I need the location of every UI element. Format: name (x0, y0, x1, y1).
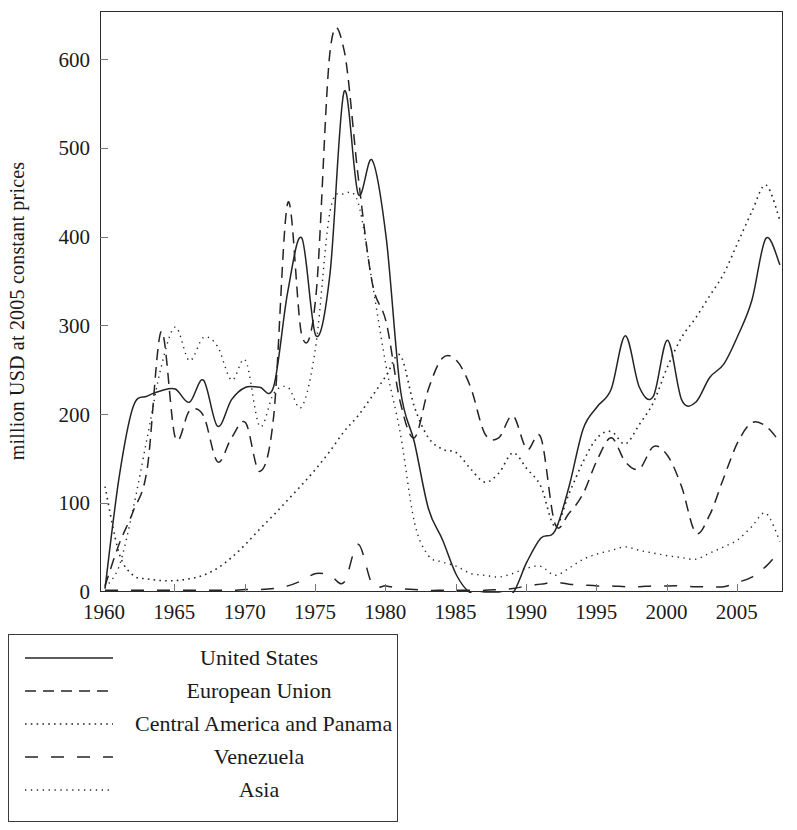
legend-item[interactable]: United States (15, 641, 387, 674)
x-tick-label: 1990 (505, 600, 547, 625)
legend-line-sample-icon (15, 679, 135, 703)
line-chart: million USD at 2005 constant prices 0100… (0, 0, 797, 622)
y-tick-label: 600 (59, 47, 91, 72)
x-tick-label: 1960 (83, 600, 125, 625)
legend-line-sample-icon (15, 745, 135, 769)
x-tick-label: 2005 (716, 600, 758, 625)
x-tick-label: 1995 (575, 600, 617, 625)
legend-item[interactable]: Venezuela (15, 740, 387, 773)
plot-area (100, 11, 783, 592)
y-tick-mark (100, 414, 108, 415)
x-tick-mark (315, 584, 316, 592)
x-tick-mark (385, 584, 386, 592)
y-tick-label: 300 (59, 313, 91, 338)
x-tick-mark (456, 584, 457, 592)
legend-item[interactable]: Asia (15, 773, 387, 806)
y-tick-label: 200 (59, 402, 91, 427)
legend-item-label: Central America and Panama (135, 711, 396, 737)
series-line-venezuela (105, 544, 780, 590)
y-tick-mark (100, 237, 108, 238)
y-axis-tick-labels: 0100200300400500600 (0, 0, 100, 622)
x-tick-label: 1985 (435, 600, 477, 625)
x-tick-label: 1975 (294, 600, 336, 625)
y-tick-label: 400 (59, 225, 91, 250)
y-tick-mark (100, 148, 108, 149)
legend-line-sample-icon (15, 712, 135, 736)
x-tick-mark (245, 584, 246, 592)
x-tick-mark (174, 584, 175, 592)
x-tick-mark (737, 584, 738, 592)
series-line-united-states (105, 91, 780, 593)
x-tick-label: 1965 (153, 600, 195, 625)
series-line-european-union (105, 28, 780, 586)
legend-item-label: Asia (135, 777, 387, 803)
x-tick-mark (526, 584, 527, 592)
legend-line-sample-icon (15, 646, 135, 670)
legend-item[interactable]: Central America and Panama (15, 707, 387, 740)
legend-item-label: United States (135, 645, 387, 671)
x-tick-label: 1980 (364, 600, 406, 625)
x-tick-label: 1970 (224, 600, 266, 625)
x-tick-label: 2000 (646, 600, 688, 625)
series-line-central-america-and-panama (105, 185, 780, 581)
y-tick-mark (100, 59, 108, 60)
y-tick-label: 100 (59, 491, 91, 516)
x-tick-mark (596, 584, 597, 592)
legend-item-label: European Union (135, 678, 387, 704)
legend-item-label: Venezuela (135, 744, 387, 770)
y-tick-label: 500 (59, 136, 91, 161)
legend: United StatesEuropean UnionCentral Ameri… (8, 634, 398, 822)
legend-line-sample-icon (15, 778, 135, 802)
legend-rows: United StatesEuropean UnionCentral Ameri… (15, 641, 387, 806)
y-tick-mark (100, 325, 108, 326)
legend-item[interactable]: European Union (15, 674, 387, 707)
x-tick-mark (667, 584, 668, 592)
y-tick-mark (100, 503, 108, 504)
chart-page: million USD at 2005 constant prices 0100… (0, 0, 797, 830)
x-axis-tick-labels: 1960196519701975198019851990199520002005 (0, 596, 797, 626)
series-lines (101, 12, 784, 593)
